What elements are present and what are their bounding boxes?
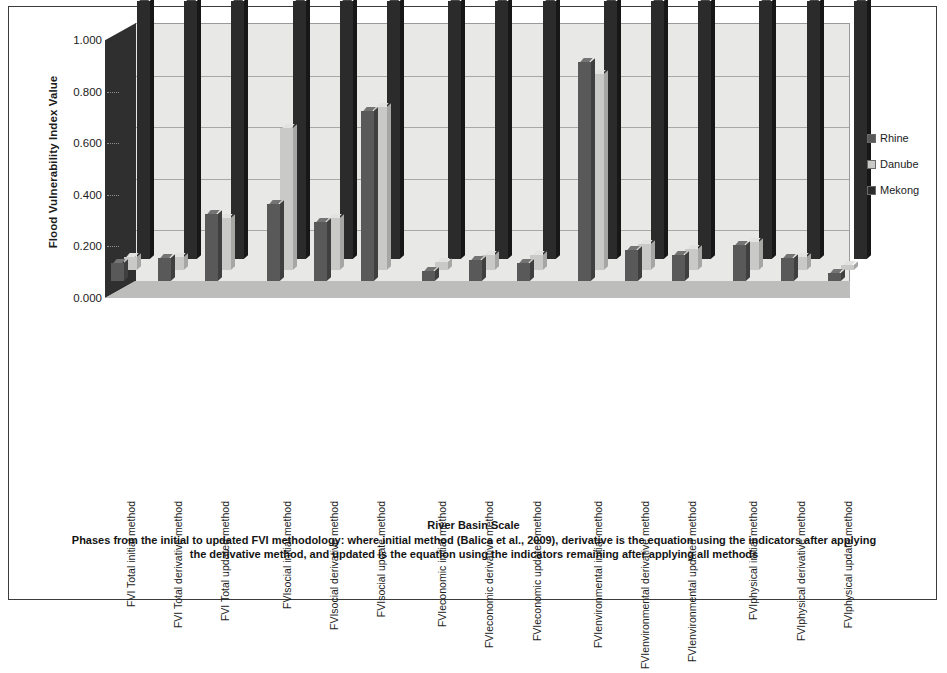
bar-mekong — [543, 1, 556, 259]
bar-rhine — [517, 263, 530, 281]
bar-face — [672, 255, 685, 281]
bar-face — [543, 1, 556, 259]
figure-frame: Flood Vulnerability Index Value 0.0000.2… — [8, 6, 937, 600]
legend-item-rhine: Rhine — [867, 125, 947, 151]
bar-rhine — [111, 263, 124, 281]
bar-side — [171, 254, 175, 281]
bar-group — [314, 23, 364, 281]
bar-side — [374, 107, 378, 281]
bar-face — [841, 265, 854, 270]
bar-rhine — [469, 260, 482, 281]
bar-side — [841, 270, 845, 281]
bar-group — [361, 23, 411, 281]
bar-side — [137, 253, 141, 269]
bar-rhine — [733, 245, 746, 281]
bar-side — [387, 104, 391, 270]
bar-face — [807, 1, 820, 259]
legend-swatch-icon — [867, 134, 876, 143]
bar-rhine — [625, 250, 638, 281]
bar-rhine — [267, 204, 280, 281]
bar-side — [495, 251, 499, 270]
bar-face — [854, 1, 867, 259]
bar-group — [781, 23, 831, 281]
bar-mekong — [759, 1, 772, 259]
y-tick-label: 0.200 — [57, 240, 102, 252]
bar-side — [772, 0, 776, 259]
bar-group — [158, 23, 208, 281]
y-tick-label: 0.400 — [57, 189, 102, 201]
y-tick-label: 1.000 — [57, 34, 102, 46]
bar-group — [672, 23, 722, 281]
legend-swatch-icon — [867, 186, 876, 195]
legend-item-danube: Danube — [867, 151, 947, 177]
bar-group — [517, 23, 567, 281]
bar-side — [306, 0, 310, 259]
plot-floor — [105, 281, 850, 298]
bar-side — [664, 0, 668, 259]
bar-side — [591, 58, 595, 281]
bar-side — [530, 259, 534, 280]
y-tick-label: 0.800 — [57, 86, 102, 98]
y-axis-tick-labels: 0.0000.2000.4000.6000.8001.000 — [57, 23, 102, 295]
bar-face — [448, 1, 461, 259]
bar-side — [184, 253, 188, 269]
bar-side — [617, 0, 621, 259]
bar-side — [231, 215, 235, 270]
bar-side — [604, 70, 608, 269]
bar-face — [158, 258, 171, 281]
x-axis-title: River Basin Scale — [9, 519, 938, 531]
bar-group — [733, 23, 783, 281]
bar-side — [293, 124, 297, 269]
x-axis-tick-labels: FVI Total initial methodFVI Total deriva… — [105, 303, 865, 513]
bar-group — [625, 23, 675, 281]
bar-side — [543, 251, 547, 270]
bar-face — [184, 1, 197, 259]
bar-mekong — [184, 1, 197, 259]
bar-face — [469, 260, 482, 281]
bar-side — [698, 246, 702, 270]
bar-face — [781, 258, 794, 281]
bar-side — [651, 241, 655, 270]
chart-legend: RhineDanubeMekong — [867, 125, 947, 203]
bar-group — [469, 23, 519, 281]
y-tick-label: 0.600 — [57, 137, 102, 149]
bar-side — [482, 257, 486, 281]
bar-mekong — [854, 1, 867, 259]
bar-side — [448, 259, 452, 270]
bar-face — [625, 250, 638, 281]
bar-face — [828, 273, 841, 281]
y-tick-label: 0.000 — [57, 292, 102, 304]
bar-side — [556, 0, 560, 259]
bar-mekong — [448, 1, 461, 259]
bar-face — [517, 263, 530, 281]
bar-mekong — [495, 1, 508, 259]
bar-group — [267, 23, 317, 281]
bar-side — [327, 218, 331, 281]
bar-side — [435, 267, 439, 281]
bar-rhine — [205, 214, 218, 281]
bar-face — [314, 222, 327, 281]
bar-side — [218, 210, 222, 280]
bar-side — [794, 254, 798, 281]
legend-label: Rhine — [880, 132, 909, 144]
bar-face — [267, 204, 280, 281]
legend-label: Mekong — [880, 184, 919, 196]
figure-caption: Phases from the initial to updated FVI m… — [67, 533, 881, 561]
bar-rhine — [422, 271, 435, 281]
bar-side — [340, 215, 344, 270]
bar-mekong — [651, 1, 664, 259]
bar-face — [651, 1, 664, 259]
bar-mekong — [137, 1, 150, 259]
bar-side — [353, 0, 357, 259]
bar-side — [508, 0, 512, 259]
bar-group — [205, 23, 255, 281]
bar-rhine — [158, 258, 171, 281]
bar-face — [698, 1, 711, 259]
bar-rhine — [361, 111, 374, 281]
bar-rhine — [314, 222, 327, 281]
legend-label: Danube — [880, 158, 919, 170]
bar-side — [746, 241, 750, 280]
bar-face — [495, 1, 508, 259]
bar-face — [578, 62, 591, 281]
legend-swatch-icon — [867, 160, 876, 169]
